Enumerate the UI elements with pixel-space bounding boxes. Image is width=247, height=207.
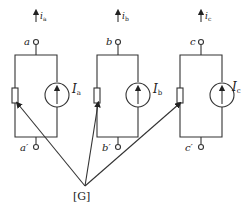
- terminal-label-b-prime: b′: [102, 142, 111, 153]
- conductance-icon: [12, 88, 18, 103]
- terminal-label-c: c: [190, 36, 196, 47]
- terminal-label-b: b: [106, 36, 112, 47]
- terminal-label-a-prime: a′: [20, 142, 29, 153]
- source-label-b: Ib: [152, 82, 163, 97]
- branch-b: ib b Ib b′: [94, 11, 163, 153]
- current-label-c: ic: [205, 11, 212, 22]
- current-label-a: ia: [40, 11, 47, 22]
- branch-a: ia a Ia a′: [12, 11, 81, 153]
- terminal-c-prime-icon: [199, 145, 204, 150]
- conductance-icon: [94, 88, 100, 103]
- terminal-a-icon: [34, 40, 39, 45]
- terminal-label-a: a: [24, 36, 30, 47]
- terminal-b-prime-icon: [116, 145, 121, 150]
- conductance-leaders: [G]: [18, 104, 179, 203]
- terminal-label-c-prime: c′: [185, 142, 194, 153]
- terminal-b-icon: [116, 40, 121, 45]
- current-label-b: ib: [122, 11, 129, 22]
- conductance-matrix-label: [G]: [73, 190, 90, 203]
- circuit-diagram: ia a Ia a′ ib b Ib b′ ic c: [0, 0, 247, 207]
- branch-c: ic c Ic c′: [177, 11, 241, 153]
- source-label-c: Ic: [231, 80, 241, 95]
- conductance-icon: [177, 88, 183, 103]
- source-label-a: Ia: [71, 82, 81, 97]
- terminal-c-icon: [199, 40, 204, 45]
- terminal-a-prime-icon: [34, 145, 39, 150]
